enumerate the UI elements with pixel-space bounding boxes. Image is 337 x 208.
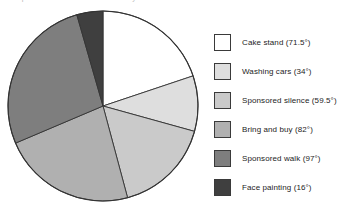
legend-item-washing-cars: Washing cars (34°) (214, 57, 332, 86)
pie-chart-svg (4, 8, 204, 208)
legend-label-washing-cars: Washing cars (34°) (242, 67, 312, 77)
legend-swatch-sponsored-walk (214, 150, 231, 167)
legend-label-cake-stand: Cake stand (71.5°) (242, 38, 311, 48)
legend-label-face-painting: Face painting (16°) (242, 183, 312, 193)
cut-off-caption-text: and a pie chart to show how the money wa… (0, 0, 332, 2)
legend-item-cake-stand: Cake stand (71.5°) (214, 28, 332, 57)
legend-label-bring-and-buy: Bring and buy (82°) (242, 125, 313, 135)
legend-swatch-face-painting (214, 179, 231, 196)
legend-item-bring-and-buy: Bring and buy (82°) (214, 115, 332, 144)
legend-item-sponsored-silence: Sponsored silence (59.5°) (214, 86, 332, 115)
legend-swatch-bring-and-buy (214, 121, 231, 138)
chart-legend: Cake stand (71.5°) Washing cars (34°) Sp… (214, 28, 332, 202)
pie-chart (4, 8, 204, 208)
legend-item-sponsored-walk: Sponsored walk (97°) (214, 144, 332, 173)
legend-label-sponsored-walk: Sponsored walk (97°) (242, 154, 321, 164)
legend-label-sponsored-silence: Sponsored silence (59.5°) (242, 96, 337, 106)
legend-item-face-painting: Face painting (16°) (214, 173, 332, 202)
legend-swatch-washing-cars (214, 63, 231, 80)
legend-swatch-cake-stand (214, 34, 231, 51)
legend-swatch-sponsored-silence (214, 92, 231, 109)
